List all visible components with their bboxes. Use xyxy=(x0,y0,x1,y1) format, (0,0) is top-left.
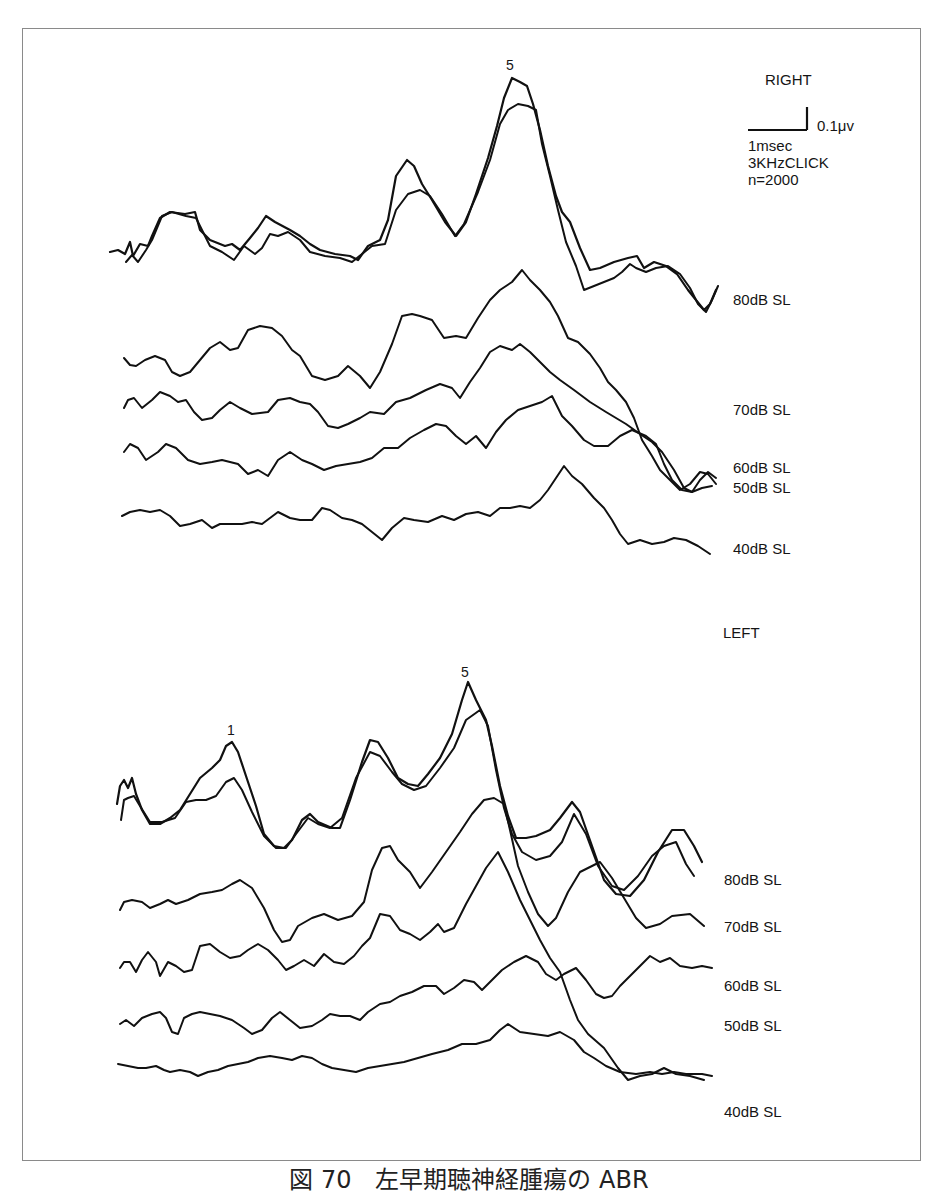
left-panel-title: LEFT xyxy=(723,625,760,640)
left-80db-label: 80dB SL xyxy=(724,872,782,887)
right-panel-title: RIGHT xyxy=(765,72,812,87)
trace-70db-sl xyxy=(120,798,704,942)
averages-label: n=2000 xyxy=(748,172,798,189)
right-60db-label: 60dB SL xyxy=(733,460,791,475)
left-70db-label: 70dB SL xyxy=(724,919,782,934)
left-wave1-label: 1 xyxy=(227,723,235,737)
trace-80db-sl-trace-b xyxy=(121,710,694,890)
trace-70db-sl xyxy=(124,270,716,490)
trace-60db-sl xyxy=(124,344,716,492)
right-40db-label: 40dB SL xyxy=(733,541,791,556)
left-40db-label: 40dB SL xyxy=(724,1104,782,1119)
left-50db-label: 50dB SL xyxy=(724,1018,782,1033)
left-wave5-label: 5 xyxy=(461,665,469,679)
right-ear-traces xyxy=(110,78,718,554)
trace-50db-sl xyxy=(124,396,712,492)
left-60db-label: 60dB SL xyxy=(724,978,782,993)
right-wave5-label: 5 xyxy=(506,58,514,72)
trace-80db-sl-trace-b xyxy=(126,104,718,312)
scale-time-label: 1msec xyxy=(748,138,792,155)
trace-40db-sl xyxy=(118,1024,712,1076)
left-ear-traces xyxy=(117,682,712,1080)
trace-40db-sl xyxy=(122,466,710,554)
figure-caption: 図 70 左早期聴神経腫瘍の ABR xyxy=(0,1168,938,1192)
trace-80db-sl-trace-a xyxy=(117,682,702,896)
right-80db-label: 80dB SL xyxy=(733,292,791,307)
right-70db-label: 70dB SL xyxy=(733,402,791,417)
trace-50db-sl xyxy=(120,956,712,1034)
right-50db-label: 50dB SL xyxy=(733,480,791,495)
scale-amplitude-label: 0.1μv xyxy=(817,118,854,135)
trace-80db-sl-trace-a xyxy=(110,78,716,310)
stimulus-label: 3KHzCLICK xyxy=(748,155,829,172)
scale-bar-icon xyxy=(748,107,807,130)
